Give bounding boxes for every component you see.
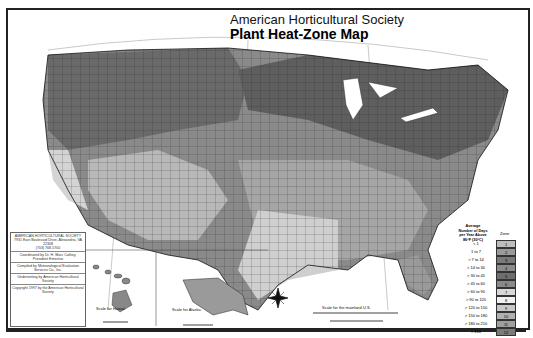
info-underwriting: Underwriting by American Horticultural S…: [11, 274, 85, 285]
legend-zone-swatch: 9: [496, 304, 516, 312]
legend-row: > 45 to 606: [458, 280, 518, 288]
legend-row: > 60 to 907: [458, 288, 518, 296]
legend-zone-swatch: 12: [496, 328, 516, 336]
hawaii-scale-label: Scale for Hawaii: [96, 306, 125, 311]
bottom-rule: [6, 330, 526, 332]
alaska-scale-label: Scale for Alaska: [172, 307, 201, 312]
legend-row: > 90 to 1208: [458, 296, 518, 304]
legend-days: > 180 to 210: [458, 320, 494, 328]
legend-days: > 7 to 14: [458, 256, 494, 264]
legend-row: < 11: [458, 240, 518, 248]
mainland-us-counties: [43, 48, 508, 310]
legend-row: 1 to 72: [458, 248, 518, 256]
legend-zone-swatch: 6: [496, 280, 516, 288]
legend-zone-swatch: 5: [496, 272, 516, 280]
legend-days: > 45 to 60: [458, 280, 494, 288]
legend-zone-swatch: 4: [496, 264, 516, 272]
legend-days: > 150 to 180: [458, 312, 494, 320]
legend-row: > 7 to 143: [458, 256, 518, 264]
info-copyright: Copyright 1997 by the American Horticult…: [11, 285, 85, 295]
legend-zone-swatch: 7: [496, 288, 516, 296]
legend-row: > 180 to 21011: [458, 320, 518, 328]
legend-zone-swatch: 2: [496, 248, 516, 256]
legend-row: > 120 to 1509: [458, 304, 518, 312]
map-title: American Horticultural Society Plant Hea…: [230, 13, 404, 42]
legend-zone-swatch: 1: [496, 240, 516, 248]
legend-zone-swatch: 3: [496, 256, 516, 264]
info-organization: AMERICAN HORTICULTURAL SOCIETY7931 East …: [11, 233, 85, 252]
legend-zone-swatch: 11: [496, 320, 516, 328]
legend-row: > 150 to 18010: [458, 312, 518, 320]
legend-zone-swatch: 8: [496, 296, 516, 304]
legend-days: > 60 to 90: [458, 288, 494, 296]
legend-row: > 14 to 304: [458, 264, 518, 272]
legend-zone-swatch: 10: [496, 312, 516, 320]
legend-days: > 14 to 30: [458, 264, 494, 272]
legend-zone-header: Zone: [500, 231, 509, 236]
info-compiled: Compiled by Meteorological Evaluation Se…: [11, 263, 85, 274]
info-coordinated: Coordinated by Dr. H. Marc Cathey, Presi…: [11, 252, 85, 263]
info-box: AMERICAN HORTICULTURAL SOCIETY7931 East …: [10, 232, 86, 327]
mainland-scale-label: Scale for the mainland U.S.: [322, 305, 371, 310]
legend-days: < 1: [458, 240, 494, 248]
title-map-name: Plant Heat-Zone Map: [230, 27, 404, 42]
legend-days: > 120 to 150: [458, 304, 494, 312]
title-organization: American Horticultural Society: [230, 13, 404, 27]
legend-row: > 30 to 455: [458, 272, 518, 280]
legend-days: 1 to 7: [458, 248, 494, 256]
legend-days: > 30 to 45: [458, 272, 494, 280]
legend-days: > 90 to 120: [458, 296, 494, 304]
legend-row: > 21012: [458, 328, 518, 336]
legend-days: > 210: [458, 328, 494, 336]
